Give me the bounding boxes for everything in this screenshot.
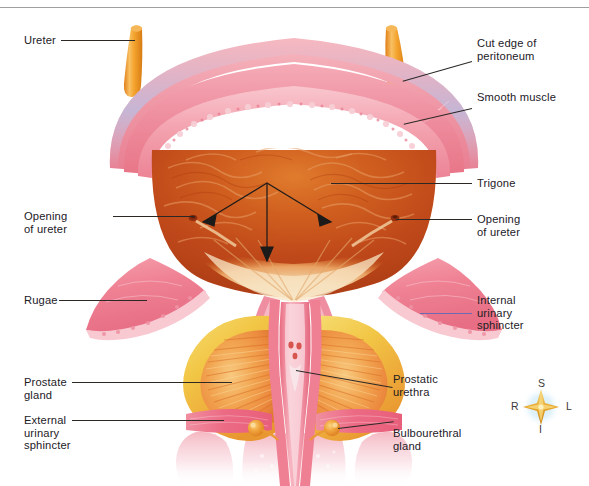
label-bulbourethral-gland: Bulbourethral gland [393,427,462,452]
label-cut-edge-of-peritoneum: Cut edge of peritoneum [477,37,537,62]
orientation-compass-star [521,387,561,427]
label-prostatic-urethra: Prostatic urethra [393,373,438,398]
leader-opening-left [113,216,195,217]
label-internal-urinary-sphincter: Internal urinary sphincter [477,294,524,332]
label-prostate-gland: Prostate gland [24,376,67,401]
leader-opening-right [396,219,472,220]
ureter-left-tube [124,25,142,97]
leader-rugae [59,300,147,301]
leader-trigone [331,183,472,184]
compass-letter-right: R [511,400,519,412]
compass-letter-superior: S [538,377,545,389]
label-ureter: Ureter [24,34,56,47]
label-opening-of-ureter-right: Opening of ureter [477,213,520,238]
leader-prostate-gland [72,382,232,383]
label-opening-of-ureter-left: Opening of ureter [24,210,67,235]
anatomy-figure: Ureter Opening of ureter Rugae Prostate … [0,0,589,486]
label-smooth-muscle: Smooth muscle [477,91,556,104]
leader-ureter [61,40,135,41]
bladder-illustration [0,0,589,486]
leader-external-sphincter [72,420,224,421]
label-rugae: Rugae [24,294,58,307]
compass-letter-left: L [566,400,572,412]
compass-letter-inferior: I [539,423,542,435]
leader-internal-sphincter [420,313,472,314]
bladder-interior-cavity [152,147,436,302]
label-external-urinary-sphincter: External urinary sphincter [24,414,71,452]
label-trigone: Trigone [477,177,516,190]
